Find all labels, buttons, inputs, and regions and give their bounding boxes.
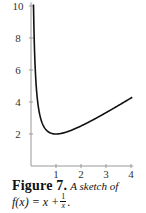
formula-end: . bbox=[67, 195, 70, 209]
y-tick-label: 2 bbox=[15, 128, 21, 140]
fraction-denominator: x bbox=[61, 202, 65, 210]
x-tick-label: 1 bbox=[53, 168, 59, 178]
y-tick-label: 8 bbox=[15, 32, 21, 44]
figure-label: Figure 7. bbox=[12, 178, 67, 193]
x-tick-label: 2 bbox=[78, 168, 84, 178]
formula-fraction: 1 x bbox=[60, 193, 66, 210]
figure-description: A sketch of bbox=[70, 180, 118, 192]
y-tick-label: 10 bbox=[13, 0, 25, 12]
formula-lhs: f(x) = x + bbox=[12, 195, 59, 209]
function-curve bbox=[34, 4, 133, 134]
function-plot: 2468101234 bbox=[0, 0, 146, 178]
x-tick-label: 4 bbox=[128, 168, 134, 178]
y-tick-label: 6 bbox=[15, 64, 21, 76]
y-tick-label: 4 bbox=[15, 96, 21, 108]
axes bbox=[31, 2, 133, 166]
figure-caption: Figure 7.A sketch of f(x) = x + 1 x . bbox=[12, 178, 146, 210]
x-tick-label: 3 bbox=[103, 168, 109, 178]
figure-formula: f(x) = x + 1 x . bbox=[12, 193, 146, 210]
